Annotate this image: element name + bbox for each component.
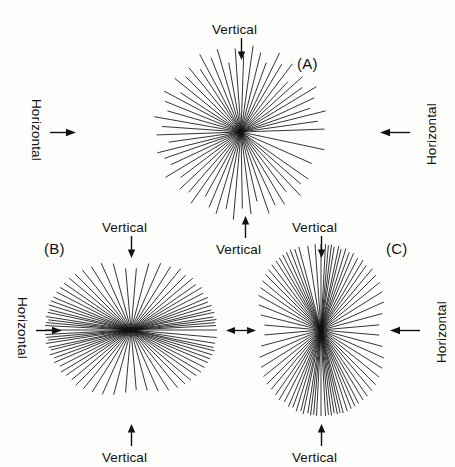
panel-label-b: (B)	[44, 240, 65, 257]
rose-ray	[321, 330, 382, 368]
rose-ray	[321, 330, 376, 385]
panel-label-a: (A)	[297, 55, 318, 72]
direction-arrow-down	[126, 236, 137, 258]
direction-arrow-up	[126, 424, 137, 446]
rose-ray	[321, 330, 372, 391]
axis-label-vertical-top-b: Vertical	[102, 220, 147, 235]
rose-panel-c	[0, 0, 455, 467]
axis-label-vertical-top-c: Vertical	[292, 220, 337, 235]
rose-ray	[266, 275, 321, 330]
direction-arrow-left	[390, 325, 420, 336]
axis-label-vertical-top-a: Vertical	[212, 22, 257, 37]
rose-ray	[279, 258, 321, 330]
ray-group-c	[259, 244, 384, 416]
figure-canvas: (A) (B) (C) VerticalHorizontalHorizontal…	[0, 0, 455, 467]
axis-label-horizontal-right-c: Horizontal	[434, 301, 449, 363]
direction-arrow-up	[316, 424, 327, 446]
axis-label-horizontal-left-a: Horizontal	[29, 99, 44, 161]
axis-label-vertical-bottom-c: Vertical	[292, 450, 337, 465]
rose-ray	[321, 292, 382, 330]
axis-label-horizontal-right-a: Horizontal	[424, 103, 439, 165]
direction-arrow-right	[36, 325, 62, 336]
rose-ray	[279, 330, 321, 400]
direction-arrow-down	[316, 236, 327, 258]
direction-arrow-right	[50, 127, 76, 138]
panel-label-c: (C)	[386, 240, 407, 257]
rose-ray	[321, 260, 363, 330]
rose-ray	[321, 330, 363, 400]
direction-arrow-double	[226, 325, 256, 336]
axis-label-vertical-bottom-a: Vertical	[216, 242, 261, 257]
axis-label-vertical-bottom-b: Vertical	[102, 450, 147, 465]
direction-arrow-left	[380, 127, 410, 138]
direction-arrow-down	[236, 38, 247, 60]
rose-ray	[261, 330, 321, 367]
direction-arrow-up	[240, 216, 251, 238]
axis-label-horizontal-left-b: Horizontal	[15, 297, 30, 359]
